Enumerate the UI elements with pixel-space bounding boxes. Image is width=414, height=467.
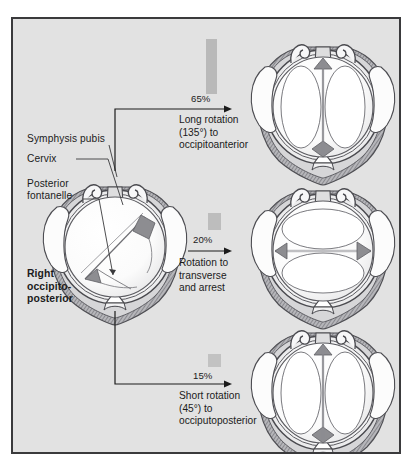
label-posterior-fontanelle: Posterior fontanelle	[27, 178, 72, 203]
label-symphysis-pubis: Symphysis pubis	[27, 133, 105, 145]
branch-description-transverse-arrest: Rotation to transverse and arrest	[179, 257, 228, 295]
outcome-pelvis-transverse	[251, 189, 394, 329]
branch-description-short-rotation: Short rotation (45°) to occiputoposterio…	[179, 390, 257, 428]
percent-bars	[206, 39, 221, 367]
percent-label-short-rotation: 15%	[193, 370, 213, 381]
branch-description-long-rotation: Long rotation (135°) to occipitoanterior	[179, 114, 248, 152]
outcome-pelvis-occipitoposterior	[251, 331, 394, 452]
percent-bar-20	[208, 213, 221, 230]
percent-label-transverse-arrest: 20%	[193, 234, 213, 245]
percent-label-long-rotation: 65%	[191, 93, 211, 104]
label-right-occipito-posterior: Right occipito- posterior	[27, 268, 73, 306]
percent-bar-15	[208, 354, 221, 367]
outcome-pelvis-occipitoanterior	[251, 45, 394, 185]
figure-panel: Symphysis pubis Cervix Posterior fontane…	[11, 17, 401, 454]
diagram-stage: Symphysis pubis Cervix Posterior fontane…	[13, 19, 399, 452]
percent-bar-65	[206, 39, 217, 94]
label-cervix: Cervix	[27, 153, 56, 165]
